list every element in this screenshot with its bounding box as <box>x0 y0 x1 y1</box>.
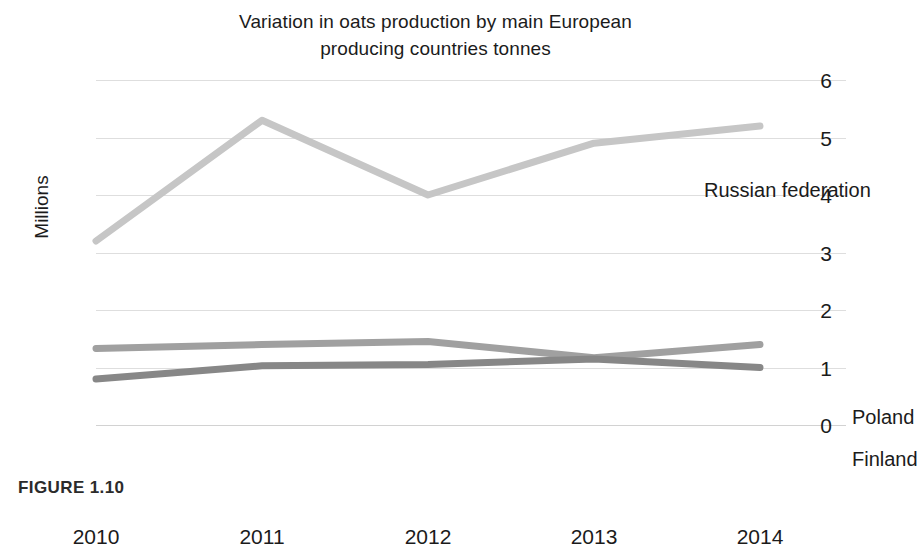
series-label-poland: Poland <box>852 407 914 427</box>
series-label-russian-federation: Russian federation <box>704 180 871 200</box>
series-label-finland: Finland <box>852 449 918 469</box>
series-line-russian-federation <box>96 120 760 241</box>
chart-title: Variation in oats production by main Eur… <box>0 8 871 62</box>
chart-title-line-2: producing countries tonnes <box>0 35 871 62</box>
series-line-finland <box>96 359 760 379</box>
x-tick-label-2010: 2010 <box>36 526 156 547</box>
figure-caption: FIGURE 1.10 <box>18 478 124 496</box>
chart-title-line-1: Variation in oats production by main Eur… <box>0 8 871 35</box>
x-tick-label-2012: 2012 <box>368 526 488 547</box>
series-plot <box>96 80 846 440</box>
x-tick-label-2013: 2013 <box>534 526 654 547</box>
plot-area: 6 5 4 3 2 1 0 2010 2011 2012 2013 2014 R… <box>96 80 846 440</box>
x-tick-label-2014: 2014 <box>700 526 820 547</box>
x-tick-label-2011: 2011 <box>202 526 322 547</box>
series-line-poland <box>96 342 760 358</box>
y-axis-title: Millions <box>31 147 53 267</box>
